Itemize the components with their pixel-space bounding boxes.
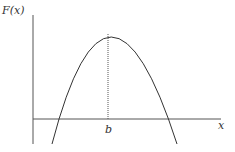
curve-F bbox=[52, 37, 177, 144]
peak-tick-label: b bbox=[105, 123, 112, 136]
parabola-plot: F(x) x b bbox=[0, 0, 235, 152]
chart: F(x) x b bbox=[0, 0, 235, 152]
x-axis-label: x bbox=[218, 119, 225, 132]
y-axis-label: F(x) bbox=[1, 4, 24, 17]
